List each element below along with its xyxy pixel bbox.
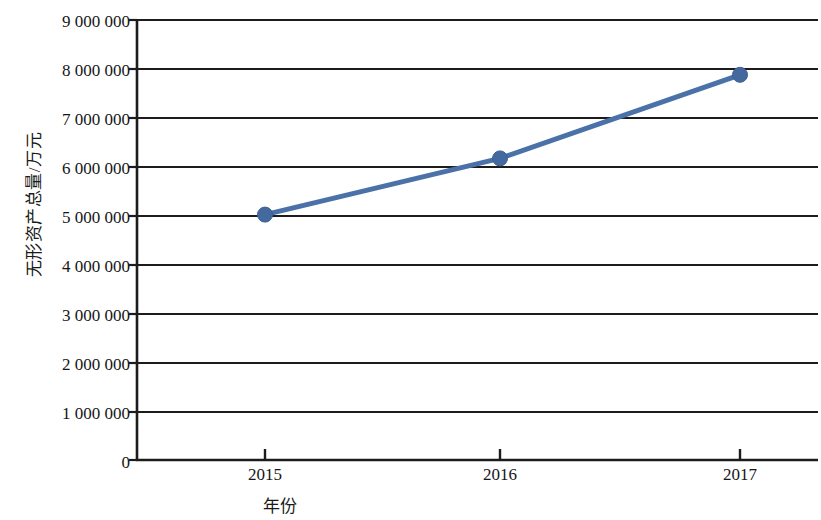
data-point-2017 — [733, 67, 748, 82]
data-point-2016 — [493, 151, 508, 166]
plot-area — [0, 0, 821, 520]
line-chart-figure: 无形资产总量/万元 9 000 000 8 000 000 7 000 000 … — [0, 0, 821, 520]
x-axis-ticks — [265, 449, 740, 460]
x-tick-label-2017: 2017 — [695, 466, 785, 483]
x-axis-title: 年份 — [0, 492, 560, 517]
data-line-series-1 — [265, 75, 740, 215]
gridlines — [137, 20, 818, 412]
x-tick-label-2016: 2016 — [455, 466, 545, 483]
data-point-2015 — [258, 207, 273, 222]
x-tick-label-2015: 2015 — [220, 466, 310, 483]
